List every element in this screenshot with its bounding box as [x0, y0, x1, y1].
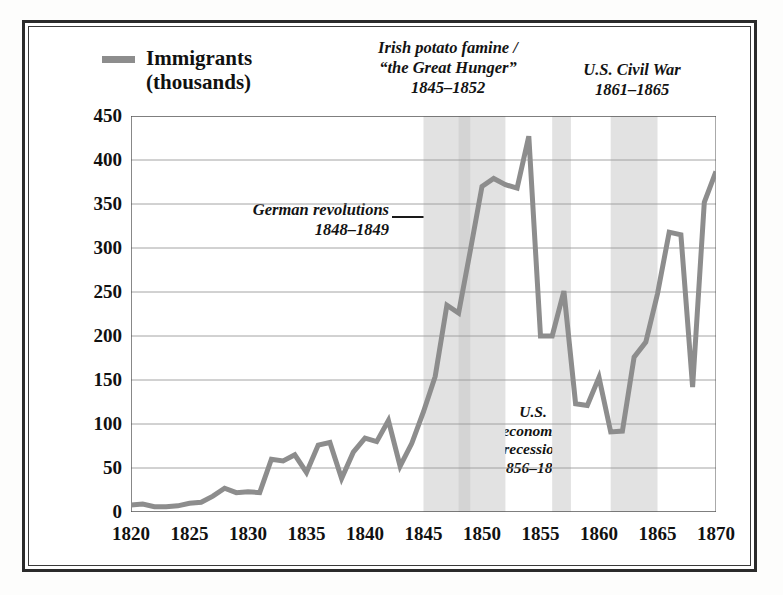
chart-plot-svg — [131, 116, 716, 512]
y-tick-label: 350 — [62, 193, 122, 215]
y-tick-label: 300 — [62, 237, 122, 259]
annotation-civil-war: U.S. Civil War 1861–1865 — [543, 60, 721, 100]
y-tick-label: 100 — [62, 413, 122, 435]
immigration-line-chart-figure: Immigrants (thousands) Irish potato fami… — [0, 0, 783, 595]
y-tick-label: 150 — [62, 369, 122, 391]
y-axis-tick-labels: 050100150200250300350400450 — [56, 116, 122, 512]
legend-label: Immigrants (thousands) — [146, 47, 252, 94]
y-tick-label: 0 — [62, 501, 122, 523]
y-tick-label: 250 — [62, 281, 122, 303]
annotation-irish-famine: Irish potato famine / “the Great Hunger”… — [338, 38, 558, 97]
x-tick-label: 1870 — [676, 523, 756, 545]
plot-area — [131, 116, 716, 512]
chart-legend: Immigrants (thousands) — [102, 47, 252, 94]
y-tick-label: 200 — [62, 325, 122, 347]
y-tick-label: 450 — [62, 105, 122, 127]
y-tick-label: 50 — [62, 457, 122, 479]
y-tick-label: 400 — [62, 149, 122, 171]
x-axis-tick-labels: 1820182518301835184018451850185518601865… — [131, 523, 716, 553]
legend-line-swatch — [102, 56, 135, 63]
